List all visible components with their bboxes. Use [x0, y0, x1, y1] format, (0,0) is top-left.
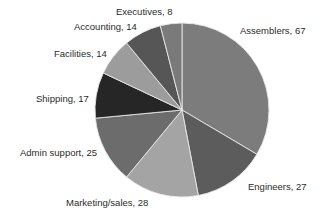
slice-label-shipping: Shipping, 17 — [36, 93, 89, 104]
slice-label-admin-support: Admin support, 25 — [20, 147, 97, 158]
slice-label-assemblers: Assemblers, 67 — [240, 25, 305, 36]
slice-label-facilities: Facilities, 14 — [54, 48, 107, 59]
slice-label-marketing-sales: Marketing/sales, 28 — [66, 197, 148, 208]
slice-label-executives: Executives, 8 — [116, 6, 173, 17]
pie-slices — [95, 23, 269, 197]
slice-label-accounting: Accounting, 14 — [74, 21, 137, 32]
slice-label-engineers: Engineers, 27 — [248, 181, 307, 192]
